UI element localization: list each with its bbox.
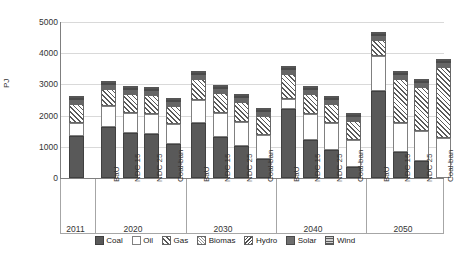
scenario-label-2030-ndc-15: NDC 15 xyxy=(223,154,232,182)
bar-segment-oil xyxy=(101,106,116,126)
bar-2050-bau[interactable] xyxy=(371,32,386,178)
category-axis-baseline xyxy=(60,233,443,234)
bar-segment-gas xyxy=(234,102,249,123)
group-separator-4 xyxy=(366,179,367,234)
bar-segment-gas xyxy=(101,89,116,106)
legend-item-wind[interactable]: Wind xyxy=(325,236,355,245)
bar-segment-oil xyxy=(123,113,138,133)
bar-segment-gas xyxy=(256,116,271,135)
year-group-label-2020: 2020 xyxy=(124,224,143,234)
chart-legend: CoalOilGasBiomasHydroSolarWind xyxy=(0,236,450,245)
legend-item-solar[interactable]: Solar xyxy=(286,236,316,245)
legend-swatch-hydro xyxy=(244,236,253,245)
bar-segment-gas xyxy=(123,94,138,113)
legend-swatch-wind xyxy=(325,236,334,245)
group-separator-0 xyxy=(60,179,61,234)
gridline-3000 xyxy=(61,84,444,85)
bar-segment-gas xyxy=(144,95,159,114)
group-separator-2 xyxy=(186,179,187,234)
scenario-label-2020-coal-ban: Coal-ban xyxy=(176,150,185,182)
scenario-label-2020-ndc-25: NDC 25 xyxy=(155,154,164,182)
year-group-label-2040: 2040 xyxy=(304,224,323,234)
scenario-label-2050-ndc-15: NDC 15 xyxy=(403,154,412,182)
scenario-label-2020-bau: BaU xyxy=(112,166,121,182)
bar-segment-gas xyxy=(281,74,296,98)
bar-segment-gas xyxy=(191,79,206,100)
bar-segment-gas xyxy=(303,94,318,113)
bar-segment-gas xyxy=(213,93,228,113)
legend-label-oil: Oil xyxy=(143,236,153,245)
gridline-4000 xyxy=(61,53,444,54)
legend-item-coal[interactable]: Coal xyxy=(95,236,123,245)
legend-swatch-coal xyxy=(95,236,104,245)
y-axis-tick-2000: 2000 xyxy=(12,111,58,121)
bar-segment-coal xyxy=(69,136,84,178)
bar-segment-gas xyxy=(414,87,429,131)
bar-segment-oil xyxy=(393,123,408,152)
bar-segment-gas xyxy=(436,67,451,139)
y-axis-tick-3000: 3000 xyxy=(12,79,58,89)
y-axis-tick-labels: 010002000300040005000 xyxy=(0,0,58,256)
gridline-5000 xyxy=(61,22,444,23)
bar-segment-oil xyxy=(166,124,181,144)
group-separator-5 xyxy=(443,179,444,234)
scenario-label-2040-bau: BaU xyxy=(292,166,301,182)
gridline-1000 xyxy=(61,147,444,148)
bar-segment-oil xyxy=(213,113,228,137)
bar-segment-coal xyxy=(371,91,386,178)
legend-label-solar: Solar xyxy=(298,236,317,245)
bar-segment-oil xyxy=(144,114,159,134)
bar-segment-gas xyxy=(393,79,408,123)
bar-segment-gas xyxy=(69,104,84,123)
scenario-label-2030-bau: BaU xyxy=(202,166,211,182)
bar-segment-oil xyxy=(303,114,318,140)
year-group-label-2030: 2030 xyxy=(214,224,233,234)
bar-segment-oil xyxy=(191,100,206,123)
legend-label-hydro: Hydro xyxy=(256,236,277,245)
bar-segment-oil xyxy=(281,99,296,110)
legend-label-biomas: Biomas xyxy=(209,236,236,245)
scenario-label-2040-coal-ban: Coal-ban xyxy=(356,150,365,182)
scenario-label-2030-ndc-25: NDC 25 xyxy=(245,154,254,182)
y-axis-tick-5000: 5000 xyxy=(12,17,58,27)
bar-segment-oil xyxy=(69,123,84,135)
scenario-label-2050-ndc-25: NDC 25 xyxy=(425,154,434,182)
bar-2020-bau[interactable] xyxy=(101,81,116,178)
scenario-label-2030-coal-ban: Coal-ban xyxy=(266,150,275,182)
legend-swatch-biomas xyxy=(197,236,206,245)
group-separator-3 xyxy=(276,179,277,234)
bar-segment-oil xyxy=(234,122,249,146)
legend-swatch-gas xyxy=(162,236,171,245)
bar-2011[interactable] xyxy=(69,96,84,178)
bar-segment-oil xyxy=(371,56,386,90)
y-axis-tick-4000: 4000 xyxy=(12,48,58,58)
scenario-label-2040-ndc-15: NDC 15 xyxy=(313,154,322,182)
bar-2030-bau[interactable] xyxy=(191,71,206,178)
year-group-label-2050: 2050 xyxy=(394,224,413,234)
y-axis-tick-1000: 1000 xyxy=(12,142,58,152)
scenario-label-2050-coal-ban: Coal-ban xyxy=(446,150,455,182)
legend-item-gas[interactable]: Gas xyxy=(162,236,188,245)
gridline-2000 xyxy=(61,116,444,117)
bar-segment-gas xyxy=(371,40,386,57)
legend-item-biomas[interactable]: Biomas xyxy=(197,236,235,245)
legend-label-gas: Gas xyxy=(174,236,189,245)
legend-swatch-solar xyxy=(286,236,295,245)
bar-segment-oil xyxy=(324,123,339,150)
year-group-label-2011: 2011 xyxy=(66,224,84,234)
bar-segment-gas xyxy=(346,121,361,140)
scenario-label-2040-ndc-25: NDC 25 xyxy=(335,154,344,182)
scenario-label-2050-bau: BaU xyxy=(382,166,391,182)
legend-item-hydro[interactable]: Hydro xyxy=(244,236,277,245)
legend-swatch-oil xyxy=(132,236,141,245)
legend-label-coal: Coal xyxy=(106,236,122,245)
legend-item-oil[interactable]: Oil xyxy=(132,236,153,245)
bar-segment-gas xyxy=(166,106,181,124)
bar-2040-bau[interactable] xyxy=(281,66,296,178)
y-axis-tick-0: 0 xyxy=(12,173,58,183)
group-separator-1 xyxy=(95,179,96,234)
scenario-label-2020-ndc-15: NDC 15 xyxy=(133,154,142,182)
legend-label-wind: Wind xyxy=(337,236,355,245)
bar-segment-gas xyxy=(324,104,339,123)
